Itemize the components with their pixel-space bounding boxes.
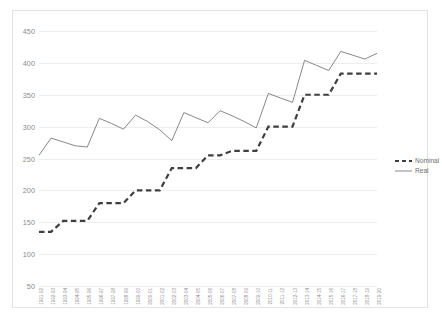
- x-axis-tick-label: 2018-19: [365, 288, 370, 305]
- x-axis-tick-label: 1992-93: [51, 288, 56, 305]
- series-line-real: [39, 51, 377, 155]
- x-axis-tick-label: 1995-96: [87, 288, 92, 305]
- plot-area: 45040035030025020015010050 1991-921992-9…: [39, 31, 377, 286]
- x-axis-tick-label: 1996-97: [99, 288, 104, 305]
- x-axis-tick-label: 2002-03: [172, 288, 177, 305]
- legend-item-real[interactable]: Real: [395, 166, 439, 176]
- series-line-nominal: [39, 74, 377, 232]
- y-axis-tick-label: 200: [23, 186, 35, 195]
- x-axis-tick-label: 2008-09: [244, 288, 249, 305]
- x-axis-tick-label: 2011-12: [280, 288, 285, 305]
- legend-label: Real: [415, 166, 429, 176]
- y-axis-tick-label: 250: [23, 154, 35, 163]
- x-axis-tick-label: 2019-20: [377, 288, 382, 305]
- x-axis-tick-label: 2017-18: [353, 288, 358, 305]
- x-axis-tick-label: 2006-07: [220, 288, 225, 305]
- x-axis-tick-label: 1993-94: [63, 288, 68, 305]
- x-axis-tick-label: 2003-04: [184, 288, 189, 305]
- legend-swatch-real-icon: [395, 168, 412, 174]
- x-axis-tick-label: 2009-10: [256, 288, 261, 305]
- x-axis-tick-label: 2012-13: [293, 288, 298, 305]
- x-axis-tick-label: 2000-01: [148, 288, 153, 305]
- x-axis-tick-label: 1994-95: [75, 288, 80, 305]
- x-axis-tick-label: 2015-16: [329, 288, 334, 305]
- y-axis-tick-label: 400: [23, 58, 35, 67]
- legend-item-nominal[interactable]: Nominal: [395, 156, 439, 166]
- x-axis-tick-label: 1999-00: [136, 288, 141, 305]
- y-axis-tick-label: 450: [23, 27, 35, 36]
- x-axis-tick-label: 1997-98: [111, 288, 116, 305]
- x-axis-tick-label: 2001-02: [160, 288, 165, 305]
- y-axis-tick-label: 50: [27, 282, 35, 291]
- x-axis-tick-label: 2013-14: [305, 288, 310, 305]
- x-axis-tick-label: 2014-15: [317, 288, 322, 305]
- x-axis-tick-label: 2004-05: [196, 288, 201, 305]
- gridline: [39, 286, 377, 287]
- y-axis-tick-label: 100: [23, 250, 35, 259]
- legend-swatch-nominal-icon: [395, 158, 412, 164]
- chart-legend: NominalReal: [395, 156, 439, 176]
- y-axis-tick-label: 300: [23, 122, 35, 131]
- y-axis-tick-label: 150: [23, 218, 35, 227]
- y-axis-tick-label: 350: [23, 90, 35, 99]
- chart-container: 45040035030025020015010050 1991-921992-9…: [12, 10, 428, 308]
- x-axis-tick-label: 2016-17: [341, 288, 346, 305]
- series-svg: [39, 31, 377, 286]
- x-axis-tick-label: 2005-06: [208, 288, 213, 305]
- x-axis-tick-label: 2010-11: [268, 288, 273, 305]
- x-axis-tick-label: 1998-99: [124, 288, 129, 305]
- legend-label: Nominal: [415, 156, 439, 166]
- plot-wrapper: 45040035030025020015010050 1991-921992-9…: [13, 11, 429, 309]
- x-axis-tick-label: 1991-92: [39, 288, 44, 305]
- x-axis-tick-label: 2007-08: [232, 288, 237, 305]
